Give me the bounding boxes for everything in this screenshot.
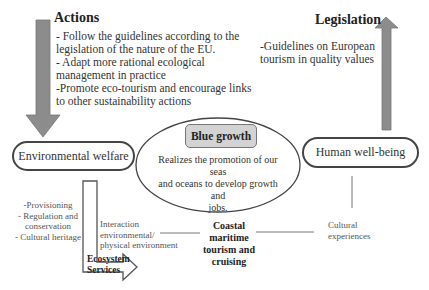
cultural-line: experiences bbox=[328, 231, 398, 242]
actions-line: legislation of the nature of the EU. bbox=[56, 43, 276, 56]
ecosystem-list-item: -Provisioning bbox=[12, 200, 84, 211]
coastal-line: tourism and bbox=[196, 244, 262, 256]
coastal-tourism-node: Coastal maritime tourism and cruising bbox=[196, 220, 262, 268]
environmental-welfare-node: Environmental welfare bbox=[12, 141, 135, 171]
human-well-being-node: Human well-being bbox=[302, 137, 419, 168]
actions-line: - Follow the guidelines according to the bbox=[56, 30, 276, 43]
cultural-experiences: Cultural experiences bbox=[328, 220, 398, 241]
blue-growth-line: Realizes the promotion of our seas bbox=[150, 154, 286, 178]
ecosystem-label-line: Ecosystem bbox=[87, 254, 130, 265]
interaction-line: physical environment bbox=[100, 240, 190, 251]
blue-growth-title: Blue growth bbox=[191, 130, 251, 142]
blue-growth-line: and oceans to develop growth and bbox=[150, 178, 286, 202]
actions-down-arrow bbox=[26, 20, 60, 137]
ecosystem-services-label: Ecosystem Services bbox=[87, 254, 130, 276]
legislation-up-arrow bbox=[375, 17, 398, 130]
ecosystem-list-item: - Cultural heritage bbox=[12, 232, 84, 243]
interaction-line: Interaction bbox=[100, 219, 190, 230]
blue-growth-description: Realizes the promotion of our seas and o… bbox=[150, 154, 286, 214]
legislation-title: Legislation bbox=[315, 12, 381, 28]
coastal-line: Coastal bbox=[196, 220, 262, 232]
coastal-line: cruising bbox=[196, 256, 262, 268]
actions-line: -Promote eco-tourism and encourage links bbox=[56, 82, 276, 95]
actions-title: Actions bbox=[54, 10, 99, 26]
interaction-text: Interaction environmental/ physical envi… bbox=[100, 219, 190, 251]
blue-growth-line: jobs. bbox=[150, 202, 286, 214]
coastal-line: maritime bbox=[196, 232, 262, 244]
legislation-list: -Guidelines on European tourism in quali… bbox=[260, 40, 390, 66]
actions-list: - Follow the guidelines according to the… bbox=[56, 30, 276, 108]
actions-line: management in practice bbox=[56, 69, 276, 82]
actions-line: to other sustainability actions bbox=[56, 95, 276, 108]
legislation-line: tourism in quality values bbox=[260, 53, 390, 66]
human-well-being-label: Human well-being bbox=[316, 145, 406, 160]
ecosystem-list-item: conservation bbox=[12, 221, 84, 232]
blue-growth-box: Blue growth bbox=[185, 124, 257, 148]
interaction-line: environmental/ bbox=[100, 230, 190, 241]
ecosystem-label-line: Services bbox=[87, 265, 130, 276]
actions-line: - Adapt more rational ecological bbox=[56, 56, 276, 69]
ecosystem-list-item: - Regulation and bbox=[12, 211, 84, 222]
legislation-line: -Guidelines on European bbox=[260, 40, 390, 53]
ecosystem-services-list: -Provisioning - Regulation and conservat… bbox=[12, 200, 84, 242]
environmental-welfare-label: Environmental welfare bbox=[18, 149, 128, 164]
cultural-line: Cultural bbox=[328, 220, 398, 231]
